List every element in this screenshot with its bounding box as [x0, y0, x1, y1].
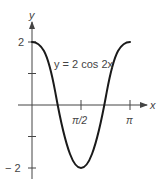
- y-axis-label: y: [28, 9, 36, 21]
- y-tick-label-neg2: − 2: [5, 162, 21, 174]
- equation-text: y = 2 cos 2x: [54, 58, 114, 70]
- x-axis-label: x: [149, 99, 156, 111]
- y-tick-label-2: 2: [18, 36, 24, 48]
- x-tick-label-pi-half: π/2: [72, 115, 87, 126]
- x-tick-label-pi: π: [126, 115, 133, 126]
- cosine-graph: y x 2 − 2 π/2 π y = 2 cos 2x: [0, 0, 165, 190]
- equation-annotation: y = 2 cos 2x: [54, 58, 114, 70]
